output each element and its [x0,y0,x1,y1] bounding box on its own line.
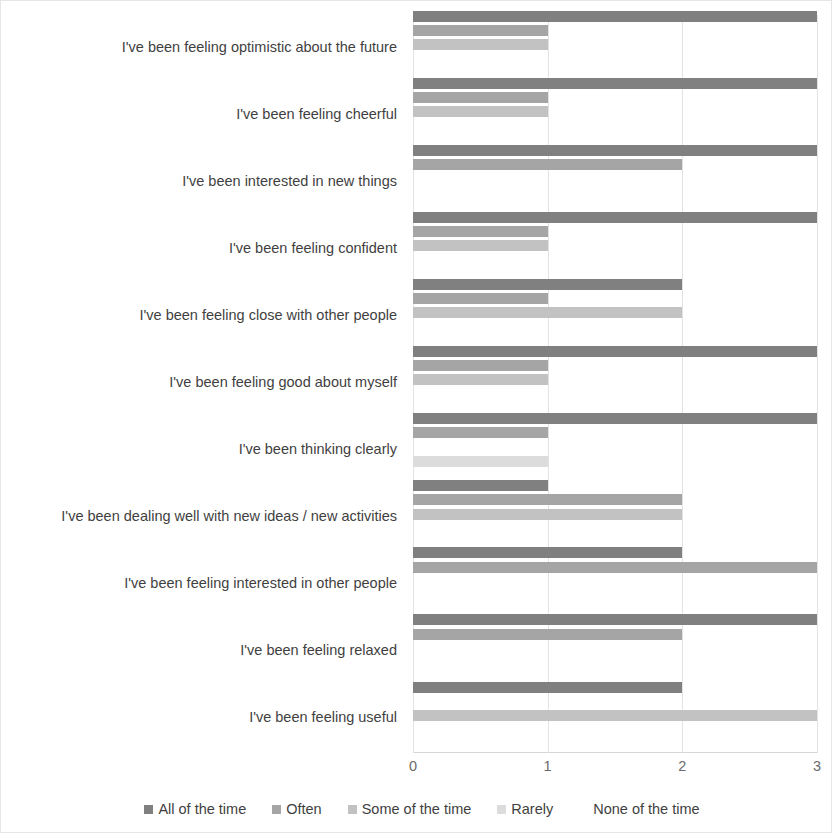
legend-label: Rarely [511,801,553,817]
category-group [413,15,817,82]
value-axis-tick-labels: 0123 [413,758,817,780]
bar [413,346,817,357]
chart-legend: All of the timeOftenSome of the timeRare… [1,794,832,824]
bar [413,92,548,103]
bar [413,360,548,371]
category-axis-labels: I've been feeling optimistic about the f… [1,15,405,753]
bar [413,427,548,438]
bar [413,106,548,117]
legend-label: All of the time [158,801,246,817]
category-label: I've been feeling relaxed [240,642,397,658]
bar [413,307,682,318]
value-axis-tick: 0 [409,758,417,774]
category-group [413,619,817,686]
bar [413,240,548,251]
category-label: I've been feeling cheerful [236,106,397,122]
bar [413,456,548,467]
category-group [413,552,817,619]
bar [413,682,682,693]
legend-swatch-icon [579,805,588,814]
legend-label: Some of the time [362,801,472,817]
category-group [413,149,817,216]
bar [413,629,682,640]
category-label: I've been feeling useful [249,709,397,725]
legend-item[interactable]: Rarely [497,801,553,817]
bar [413,413,817,424]
bar [413,547,682,558]
bar [413,25,548,36]
bar [413,226,548,237]
plot-area [413,15,817,753]
bar-chart: I've been feeling optimistic about the f… [0,0,832,833]
legend-swatch-icon [144,805,153,814]
legend-item[interactable]: Some of the time [348,801,472,817]
gridline [817,15,818,753]
legend-swatch-icon [348,805,357,814]
category-label: I've been dealing well with new ideas / … [61,508,397,524]
category-label: I've been feeling good about myself [169,374,397,390]
category-label: I've been interested in new things [182,173,397,189]
legend-swatch-icon [497,805,506,814]
bar [413,293,548,304]
category-group [413,350,817,417]
category-label: I've been thinking clearly [239,441,397,457]
category-group [413,485,817,552]
bar [413,509,682,520]
legend-swatch-icon [272,805,281,814]
value-axis-tick: 3 [813,758,821,774]
bar [413,159,682,170]
bar [413,78,817,89]
bar [413,494,682,505]
value-axis-tick: 1 [544,758,552,774]
category-group [413,82,817,149]
legend-item[interactable]: All of the time [144,801,246,817]
bar [413,279,682,290]
legend-label: Often [286,801,321,817]
value-axis-tick: 2 [678,758,686,774]
bar [413,614,817,625]
bar [413,710,817,721]
bar [413,562,817,573]
bar [413,480,548,491]
bar [413,374,548,385]
category-label: I've been feeling interested in other pe… [124,575,397,591]
legend-label: None of the time [593,801,699,817]
bar [413,145,817,156]
legend-item[interactable]: None of the time [579,801,699,817]
category-group [413,283,817,350]
category-label: I've been feeling close with other peopl… [140,307,398,323]
category-group [413,686,817,753]
bar [413,39,548,50]
bar [413,11,817,22]
category-label: I've been feeling optimistic about the f… [122,39,397,55]
bar [413,212,817,223]
category-group [413,418,817,485]
category-label: I've been feeling confident [229,240,397,256]
legend-item[interactable]: Often [272,801,321,817]
category-group [413,216,817,283]
